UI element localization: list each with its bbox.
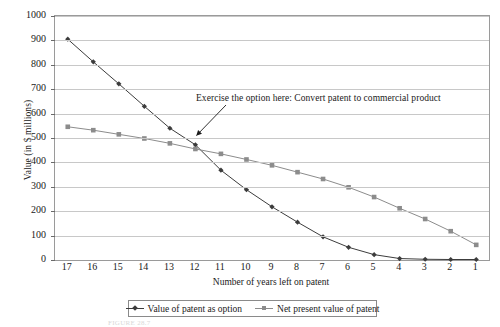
legend-entry[interactable]: Net present value of patent [255, 304, 379, 314]
figure-caption: FIGURE 28.7 [108, 319, 151, 327]
y-axis-tick-labels: 01002003004005006007008009001000 [0, 0, 52, 327]
y-axis-tick-label: 700 [31, 83, 46, 93]
x-axis-title: Number of years left on patent [54, 277, 488, 287]
y-axis-tick-label: 100 [31, 230, 46, 240]
data-point-marker [423, 217, 428, 222]
data-point-marker [219, 152, 224, 157]
legend-entry-label: Net present value of patent [277, 304, 379, 314]
x-axis-tick-label: 3 [422, 262, 427, 272]
data-point-marker [193, 147, 198, 152]
gridline [55, 114, 489, 115]
y-axis-tick-label: 1000 [26, 10, 46, 20]
y-axis-tick-label: 600 [31, 108, 46, 118]
y-axis-tick-mark [51, 187, 55, 188]
x-axis-tick-label: 6 [345, 262, 350, 272]
gridline [55, 16, 489, 17]
y-axis-tick-label: 0 [41, 254, 46, 264]
gridline [55, 89, 489, 90]
x-axis-tick-label: 5 [371, 262, 376, 272]
y-axis-tick-label: 800 [31, 59, 46, 69]
x-axis-tick-label: 14 [138, 262, 148, 272]
y-axis-tick-mark [51, 162, 55, 163]
y-axis-tick-label: 500 [31, 132, 46, 142]
y-axis-tick-mark [51, 89, 55, 90]
data-point-marker [295, 170, 300, 175]
x-axis-tick-label: 11 [215, 262, 225, 272]
data-point-marker [117, 132, 122, 137]
data-point-marker [270, 163, 275, 168]
y-axis-tick-mark [51, 40, 55, 41]
gridline [55, 236, 489, 237]
x-axis-tick-label: 15 [113, 262, 123, 272]
legend-square-marker-icon [255, 304, 273, 313]
legend-entry-label: Value of patent as option [148, 304, 242, 314]
x-axis-tick-labels: 1716151413121110987654321 [54, 262, 488, 278]
x-axis-tick-label: 10 [240, 262, 250, 272]
x-axis-tick-label: 12 [189, 262, 199, 272]
x-axis-tick-label: 9 [269, 262, 274, 272]
x-axis-tick-label: 7 [320, 262, 325, 272]
series-value-of-patent-as-option [65, 37, 479, 263]
gridline [55, 211, 489, 212]
gridline [55, 162, 489, 163]
y-axis-tick-label: 300 [31, 181, 46, 191]
y-axis-tick-label: 400 [31, 156, 46, 166]
x-axis-tick-label: 8 [294, 262, 299, 272]
y-axis-tick-mark [51, 236, 55, 237]
legend-diamond-marker-icon [126, 304, 144, 313]
gridline [55, 187, 489, 188]
gridline [55, 138, 489, 139]
data-point-marker [397, 206, 402, 211]
plot-area [54, 15, 490, 261]
data-point-marker [65, 124, 70, 129]
y-axis-tick-mark [51, 260, 55, 261]
y-axis-tick-mark [51, 138, 55, 139]
legend: Value of patent as optionNet present val… [128, 300, 377, 317]
x-axis-tick-label: 4 [396, 262, 401, 272]
gridline [55, 65, 489, 66]
y-axis-tick-mark [51, 114, 55, 115]
y-axis-tick-mark [51, 65, 55, 66]
y-axis-tick-label: 900 [31, 34, 46, 44]
data-point-marker [269, 204, 274, 209]
data-point-marker [321, 177, 326, 182]
series-line [68, 39, 476, 259]
data-point-marker [295, 220, 300, 225]
y-axis-tick-label: 200 [31, 205, 46, 215]
x-axis-tick-label: 16 [87, 262, 97, 272]
data-point-marker [448, 229, 453, 234]
x-axis-tick-label: 1 [473, 262, 478, 272]
data-point-marker [372, 252, 377, 257]
data-point-marker [372, 195, 377, 200]
y-axis-tick-mark [51, 16, 55, 17]
annotation-label: Exercise the option here: Convert patent… [196, 93, 441, 103]
data-point-marker [91, 128, 96, 133]
x-axis-tick-label: 13 [164, 262, 174, 272]
data-point-marker [474, 243, 479, 248]
data-point-marker [168, 141, 173, 146]
gridline [55, 40, 489, 41]
x-axis-tick-label: 17 [62, 262, 72, 272]
patent-valuation-chart-figure: Value (in $ millions) 010020030040050060… [0, 0, 500, 327]
y-axis-tick-mark [51, 211, 55, 212]
x-axis-tick-label: 2 [447, 262, 452, 272]
legend-entry[interactable]: Value of patent as option [126, 304, 242, 314]
data-point-marker [346, 245, 351, 250]
data-point-marker [244, 157, 249, 162]
